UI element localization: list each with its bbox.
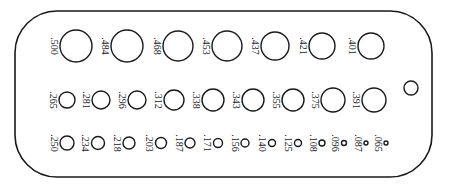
hole-size-label: .296 bbox=[117, 91, 128, 109]
gauge-hole bbox=[282, 89, 304, 111]
gauge-hole bbox=[60, 136, 74, 150]
hole-size-label: .484 bbox=[100, 37, 111, 55]
hole-size-label: .065 bbox=[373, 134, 384, 152]
hole-size-label: .125 bbox=[283, 134, 294, 152]
gauge-hole bbox=[214, 139, 223, 148]
hole-size-label: .312 bbox=[153, 91, 164, 109]
gauge-hole bbox=[185, 138, 195, 148]
hole-size-label: .108 bbox=[308, 134, 319, 152]
gauge-hole bbox=[241, 139, 249, 147]
gauge-hole bbox=[59, 92, 75, 108]
gauge-hole bbox=[384, 141, 388, 145]
hole-size-label: .500 bbox=[49, 37, 60, 55]
hole-size-label: .156 bbox=[230, 134, 241, 152]
gauge-hole bbox=[269, 140, 276, 147]
gauge-hole bbox=[362, 88, 386, 112]
gauge-hole bbox=[164, 90, 184, 110]
hole-size-label: .401 bbox=[347, 37, 358, 55]
hole-size-label: .375 bbox=[310, 91, 321, 109]
hole-size-label: .265 bbox=[48, 91, 59, 109]
row-1: .500.484.468.453.437.421.401 bbox=[49, 30, 385, 62]
gauge-hole bbox=[111, 30, 143, 62]
row-2: .265.281.296.312.338.343.355.375.391 bbox=[48, 88, 387, 112]
hole-size-label: .203 bbox=[144, 134, 155, 152]
gauge-hole bbox=[295, 140, 302, 147]
hole-size-label: .218 bbox=[112, 134, 123, 152]
gauge-hole bbox=[309, 33, 335, 59]
hole-size-label: .343 bbox=[231, 91, 242, 109]
gauge-hole bbox=[60, 30, 92, 62]
hole-size-label: .468 bbox=[152, 37, 163, 55]
gauge-hole bbox=[342, 141, 347, 146]
hole-size-label: .140 bbox=[257, 134, 268, 152]
hole-size-label: .437 bbox=[250, 37, 261, 55]
gauge-hole bbox=[261, 32, 289, 60]
hole-size-label: .453 bbox=[201, 37, 212, 55]
hanging-hole bbox=[404, 81, 418, 95]
hole-size-label: .391 bbox=[351, 91, 362, 109]
hole-size-label: .234 bbox=[80, 134, 91, 152]
gauge-hole bbox=[202, 89, 224, 111]
gauge-hole bbox=[92, 91, 110, 109]
hole-size-label: .187 bbox=[174, 134, 185, 152]
gauge-hole bbox=[364, 141, 368, 145]
drill-gauge-diagram: .500.484.468.453.437.421.401.265.281.296… bbox=[0, 0, 449, 186]
gauge-hole bbox=[319, 140, 325, 146]
gauge-hole bbox=[92, 137, 105, 150]
hole-size-label: .421 bbox=[298, 37, 309, 55]
gauge-hole bbox=[128, 91, 146, 109]
gauge-hole bbox=[242, 89, 264, 111]
hole-size-label: .338 bbox=[191, 91, 202, 109]
hole-size-label: .171 bbox=[202, 134, 213, 152]
gauge-hole bbox=[321, 88, 345, 112]
gauge-hole bbox=[156, 138, 167, 149]
gauge-hole bbox=[163, 31, 193, 61]
hole-size-label: .250 bbox=[49, 134, 60, 152]
hole-rows: .500.484.468.453.437.421.401.265.281.296… bbox=[48, 30, 389, 152]
hole-size-label: .096 bbox=[330, 134, 341, 152]
hole-size-label: .087 bbox=[353, 134, 364, 152]
row-3: .250.234.218.203.187.171.156.140.125.108… bbox=[49, 134, 389, 152]
hole-size-label: .355 bbox=[271, 91, 282, 109]
hole-size-label: .281 bbox=[81, 91, 92, 109]
gauge-hole bbox=[212, 31, 242, 61]
gauge-hole bbox=[123, 137, 135, 149]
gauge-hole bbox=[358, 33, 384, 59]
